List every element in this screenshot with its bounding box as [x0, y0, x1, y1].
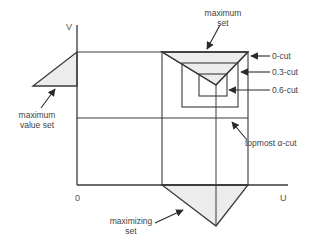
maximum-set-label: maximum set	[200, 8, 246, 28]
maximum-value-set-label: maximum value set	[12, 110, 62, 130]
maximum-set-arrow	[207, 25, 220, 49]
origin-label: 0	[75, 193, 80, 203]
v-axis-label: V	[66, 22, 72, 32]
maximizing-set-label: maximizing set	[104, 216, 158, 236]
maximum-value-set-arrow	[41, 89, 55, 108]
u-axis-label: U	[280, 193, 287, 203]
maximum-value-set-triangle	[33, 52, 77, 86]
cut-06-label: 0.6-cut	[272, 85, 298, 95]
cut-03-label: 0.3-cut	[272, 67, 298, 77]
cut-0-label: 0-cut	[272, 51, 291, 61]
topmost-cut-label: topmost α-cut	[245, 138, 297, 148]
maximum-set-triangle	[162, 52, 248, 85]
maximizing-set-arrow	[155, 210, 183, 223]
maximizing-set-triangle	[162, 185, 248, 226]
